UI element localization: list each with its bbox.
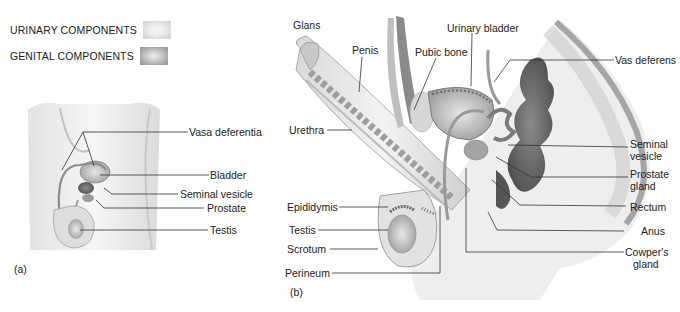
label-seminal-vesicle-b-line2: vesicle [630, 150, 662, 162]
label-epididymis: Epididymis [287, 201, 338, 213]
label-testis-a: Testis [210, 224, 237, 236]
legend-label-urinary: URINARY COMPONENTS [10, 24, 137, 36]
label-anus: Anus [641, 225, 665, 237]
label-bladder: Bladder [210, 169, 246, 181]
legend-item-urinary: URINARY COMPONENTS [10, 21, 171, 39]
label-prostate-gland-line1: Prostate [630, 168, 669, 180]
label-seminal-vesicle-a: Seminal vesicle [180, 188, 253, 200]
label-penis: Penis [352, 44, 378, 56]
legend-swatch-genital [140, 47, 168, 65]
panel-a-figure [28, 103, 209, 250]
label-seminal-vesicle-b-line1: Seminal [630, 138, 668, 150]
label-glans: Glans [293, 19, 320, 31]
label-testis-b: Testis [289, 224, 316, 236]
legend-label-genital: GENITAL COMPONENTS [10, 50, 134, 62]
label-cowpers-gland-line2: gland [633, 258, 659, 270]
label-scrotum: Scrotum [287, 243, 326, 255]
legend-swatch-urinary [143, 21, 171, 39]
legend-item-genital: GENITAL COMPONENTS [10, 47, 168, 65]
panel-b-figure [296, 16, 650, 300]
label-urinary-bladder: Urinary bladder [447, 22, 519, 34]
panel-a-tag: (a) [14, 263, 27, 275]
label-perineum: Perineum [285, 267, 330, 279]
label-vasa-deferentia: Vasa deferentia [189, 126, 262, 138]
label-vas-deferens: Vas deferens [615, 54, 676, 66]
label-rectum: Rectum [630, 201, 666, 213]
label-pubic-bone: Pubic bone [415, 46, 468, 58]
panel-b-tag: (b) [290, 286, 303, 298]
label-prostate-a: Prostate [207, 202, 246, 214]
label-prostate-gland-line2: gland [630, 180, 656, 192]
label-cowpers-gland-line1: Cowper's [625, 246, 668, 258]
label-urethra: Urethra [289, 124, 324, 136]
